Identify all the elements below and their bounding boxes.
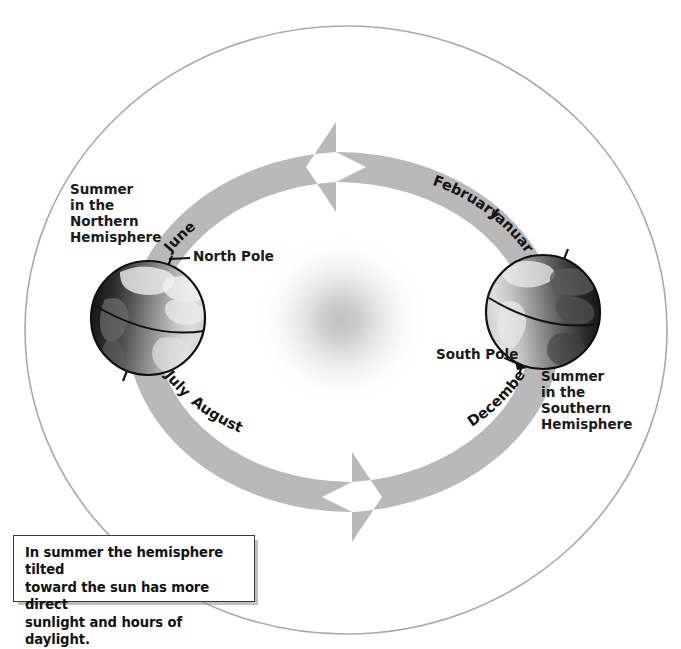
summer-northern-hemisphere-label: Summer in the Northern Hemisphere [70, 182, 161, 246]
north-pole-label: North Pole [193, 249, 274, 265]
earth-globe-northern-summer [91, 256, 209, 384]
caption-text: In summer the hemisphere tilted toward t… [25, 544, 249, 649]
north-pole-leader [169, 258, 190, 259]
sun-glow [249, 228, 433, 412]
south-pole-label: South Pole [436, 347, 518, 363]
caption-box: In summer the hemisphere tilted toward t… [13, 535, 255, 602]
summer-southern-hemisphere-label: Summer in the Southern Hemisphere [541, 369, 632, 433]
